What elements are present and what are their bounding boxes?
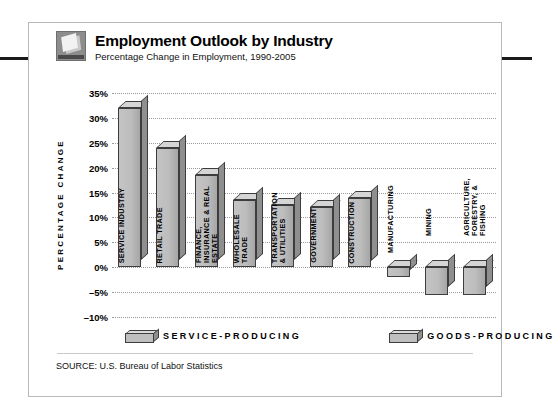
bar-category-label: MINING	[425, 178, 448, 236]
y-axis-tick-label: –10%	[84, 312, 108, 323]
bar-front-face	[463, 267, 486, 294]
bar-front-face	[310, 207, 333, 267]
y-axis-tick-label: 15%	[89, 187, 108, 198]
y-axis-tick-label: 20%	[89, 162, 108, 173]
bar[interactable]: WHOLESALE TRADE	[233, 200, 256, 267]
chart-bars: SERVICE INDUSTRYRETAIL TRADEFINANCE, INS…	[112, 85, 496, 325]
legend-label: GOODS-PRODUCING	[427, 331, 555, 341]
bar-category-label: AGRICULTURE, FORESTRY, & FISHING	[463, 178, 486, 236]
header-rule-left	[0, 57, 30, 60]
cube-box-icon	[56, 31, 86, 61]
y-axis-tick-label: 10%	[89, 212, 108, 223]
bar-category-label: MANUFACTURING	[387, 195, 410, 253]
legend-item[interactable]: SERVICE-PRODUCING	[125, 330, 301, 343]
y-axis-tick-label: –5%	[89, 287, 108, 298]
bar-side-face	[448, 254, 455, 288]
bar-side-face	[294, 192, 301, 261]
bar-side-face	[256, 187, 263, 260]
legend-swatch-icon	[389, 330, 418, 343]
bar-front-face	[233, 200, 256, 267]
chart-card: Employment Outlook by Industry Percentag…	[28, 22, 502, 397]
bar[interactable]: FINANCE, INSURANCE & REAL ESTATE	[195, 175, 218, 267]
bar[interactable]: MANUFACTURING	[387, 267, 410, 277]
bar-side-face	[218, 162, 225, 260]
legend-label: SERVICE-PRODUCING	[163, 331, 301, 341]
bar-side-face	[371, 184, 378, 260]
bar-side-face	[141, 95, 148, 261]
bar[interactable]: MINING	[425, 267, 448, 294]
bar-front-face	[348, 198, 371, 268]
bar[interactable]: SERVICE INDUSTRY	[118, 108, 141, 267]
bar-front-face	[195, 175, 218, 267]
legend-item[interactable]: GOODS-PRODUCING	[389, 330, 555, 343]
bar[interactable]: GOVERNMENT	[310, 207, 333, 267]
bar[interactable]: CONSTRUCTION	[348, 198, 371, 268]
bar-side-face	[179, 134, 186, 260]
bar-front-face	[156, 148, 179, 267]
bar[interactable]: TRANSPORTATION & UTILITIES	[271, 205, 294, 267]
y-axis-title: PERCENTAGE CHANGE	[56, 115, 70, 295]
chart-legend: SERVICE-PRODUCINGGOODS-PRODUCING	[125, 323, 505, 349]
source-note: SOURCE: U.S. Bureau of Labor Statistics	[56, 361, 223, 371]
bar-front-face	[387, 267, 410, 277]
y-axis-tick-label: 30%	[89, 112, 108, 123]
header-rule-right	[502, 57, 532, 60]
y-axis-tick-label: 35%	[89, 88, 108, 99]
bar-side-face	[410, 254, 417, 270]
bar-side-face	[333, 194, 340, 260]
bar[interactable]: RETAIL TRADE	[156, 148, 179, 267]
bar-front-face	[271, 205, 294, 267]
y-axis-tick-label: 25%	[89, 137, 108, 148]
page-subtitle: Percentage Change in Employment, 1990-20…	[95, 51, 333, 63]
bar-front-face	[425, 267, 448, 294]
bar[interactable]: AGRICULTURE, FORESTRY, & FISHING	[463, 267, 486, 294]
y-axis-tick-labels: 35%30%25%20%15%10%5%0%–5%–10%	[70, 85, 110, 325]
y-axis-tick-label: 0%	[94, 262, 108, 273]
bar-front-face	[118, 108, 141, 267]
y-axis-tick-label: 5%	[94, 237, 108, 248]
bar-side-face	[486, 254, 493, 288]
chart-header: Employment Outlook by Industry Percentag…	[56, 31, 333, 63]
source-divider	[57, 353, 473, 354]
page-title: Employment Outlook by Industry	[95, 32, 333, 49]
legend-swatch-icon	[125, 330, 154, 343]
chart-plot-area: PERCENTAGE CHANGE 35%30%25%20%15%10%5%0%…	[56, 85, 496, 325]
